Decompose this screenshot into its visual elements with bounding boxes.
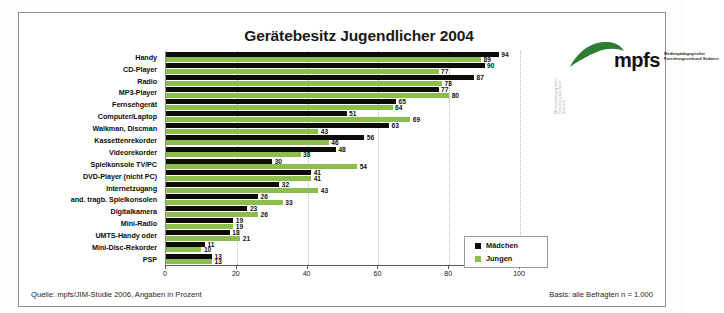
mpfs-logo: mpfs Medienpädagogischer Forschungsverbu… (564, 35, 684, 97)
bar-maedchen (166, 52, 499, 57)
bar-value-jungen: 21 (243, 235, 250, 242)
category-label: PSP (143, 255, 157, 264)
category-label: Digitalkamera (111, 207, 158, 216)
x-tick-label: 40 (303, 270, 311, 277)
bar-jungen (166, 93, 449, 98)
x-tick-label: 100 (513, 270, 525, 277)
bar-jungen (166, 129, 318, 134)
bar-jungen (166, 247, 201, 252)
mpfs-sidetext: Medienpädagogischer Forschungsverbund Sü… (554, 77, 566, 114)
chart-title: Gerätebesitz Jugendlicher 2004 (169, 27, 549, 45)
category-label: Internetzugang (106, 184, 157, 193)
bar-jungen (166, 81, 442, 86)
bar-maedchen (166, 75, 474, 80)
category-label: Computer/Laptop (98, 112, 157, 121)
category-label: Handy (135, 53, 157, 62)
bar-value-jungen: 69 (413, 116, 420, 123)
bar-maedchen (166, 87, 439, 92)
legend-item-maedchen: Mädchen (475, 241, 547, 250)
bar-jungen (166, 69, 439, 74)
plot-area: HandyCD-PlayerRadioMP3-PlayerFernsehgerä… (39, 51, 539, 281)
bar-jungen (166, 105, 393, 110)
category-label: Videorekorder (109, 148, 157, 157)
category-label: UMTS-Handy oder (95, 231, 157, 240)
bar-jungen (166, 224, 233, 229)
bar-value-maedchen: 56 (367, 134, 374, 141)
bar-value-jungen: 43 (321, 128, 328, 135)
footer-basis: Basis: alle Befragten n = 1.000 (549, 290, 653, 299)
x-tick (307, 265, 308, 269)
bar-maedchen (166, 194, 258, 199)
category-label: Spielkonsole TV/PC (90, 160, 157, 169)
x-tick (165, 265, 166, 269)
bar-jungen (166, 152, 301, 157)
x-tick-label: 80 (444, 270, 452, 277)
bar-maedchen (166, 218, 233, 223)
gridline (520, 51, 521, 265)
bar-jungen (166, 176, 311, 181)
bar-jungen (166, 57, 481, 62)
chart-frame: Gerätebesitz Jugendlicher 2004 mpfs Medi… (18, 12, 666, 297)
legend-item-jungen: Jungen (475, 254, 547, 263)
legend-label-jungen: Jungen (486, 254, 512, 263)
category-label: CD-Player (123, 65, 157, 74)
category-label: Kassettenrekorder (94, 136, 157, 145)
bar-value-jungen: 64 (395, 104, 402, 111)
bar-value-maedchen: 48 (338, 146, 345, 153)
x-tick-label: 60 (373, 270, 381, 277)
category-label: and. tragb. Spielkonsolen (71, 195, 157, 204)
bar-value-jungen: 38 (303, 151, 310, 158)
bar-value-maedchen: 94 (501, 51, 508, 58)
bar-maedchen (166, 123, 389, 128)
category-label: Walkman, Discman (93, 124, 157, 133)
bar-maedchen (166, 159, 272, 164)
bar-value-jungen: 10 (204, 246, 211, 253)
chart-legend: Mädchen Jungen (464, 236, 548, 268)
x-tick-label: 0 (163, 270, 167, 277)
bar-value-maedchen: 63 (392, 122, 399, 129)
legend-swatch-maedchen (475, 243, 481, 249)
bar-jungen (166, 200, 283, 205)
bar-jungen (166, 140, 329, 145)
bar-value-jungen: 80 (452, 92, 459, 99)
bar-value-maedchen: 90 (487, 62, 494, 69)
bar-jungen (166, 212, 258, 217)
bar-maedchen (166, 63, 485, 68)
bar-maedchen (166, 182, 279, 187)
bar-jungen (166, 117, 410, 122)
x-tick (236, 265, 237, 269)
bar-maedchen (166, 99, 396, 104)
x-tick (448, 265, 449, 269)
bar-value-jungen: 43 (321, 187, 328, 194)
bar-jungen (166, 164, 357, 169)
x-tick (377, 265, 378, 269)
bar-maedchen (166, 242, 205, 247)
bars-container: 9489907787787780656451696343564648383054… (165, 51, 519, 265)
bar-value-jungen: 26 (261, 211, 268, 218)
category-label: Mini-Disc-Rekorder (92, 243, 157, 252)
mpfs-subtitle: Medienpädagogischer Forschungsverbund Sü… (664, 51, 724, 61)
chart-footer: Quelle: mpfs/JIM-Studie 2006, Angaben in… (18, 283, 666, 307)
bar-value-jungen: 33 (285, 199, 292, 206)
bar-maedchen (166, 254, 212, 259)
bar-value-jungen: 41 (314, 175, 321, 182)
category-label: MP3-Player (119, 88, 157, 97)
bar-jungen (166, 259, 212, 264)
bar-value-jungen: 77 (441, 68, 448, 75)
category-axis: HandyCD-PlayerRadioMP3-PlayerFernsehgerä… (39, 51, 161, 265)
bar-jungen (166, 188, 318, 193)
bar-maedchen (166, 206, 247, 211)
bar-maedchen (166, 230, 230, 235)
category-label: DVD-Player (nicht PC) (83, 172, 157, 181)
bar-value-jungen: 54 (360, 163, 367, 170)
legend-label-maedchen: Mädchen (486, 241, 518, 250)
mpfs-wordmark: mpfs (614, 49, 660, 72)
bar-maedchen (166, 170, 311, 175)
legend-swatch-jungen (475, 256, 481, 262)
x-tick-label: 20 (232, 270, 240, 277)
bar-maedchen (166, 111, 347, 116)
category-label: Mini-Radio (121, 219, 157, 228)
bar-value-maedchen: 87 (476, 74, 483, 81)
category-label: Radio (137, 77, 157, 86)
